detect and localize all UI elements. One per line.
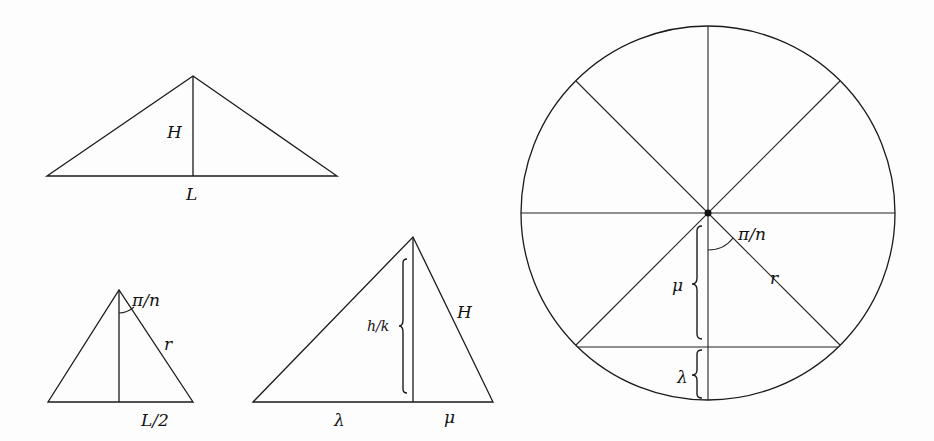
brace-lambda <box>692 350 702 398</box>
label-lambda-base: λ <box>333 410 345 430</box>
triangle-small: π/n r L/2 <box>48 290 193 430</box>
brace-h-over-k <box>399 259 407 393</box>
label-r-small: r <box>164 334 173 354</box>
diagram-svg: H L π/n r L/2 h/k H λ μ <box>0 0 934 441</box>
triangle-top-outline <box>47 76 337 176</box>
geometry-diagram: H L π/n r L/2 h/k H λ μ <box>0 0 934 441</box>
triangle-top: H L <box>47 76 337 204</box>
angle-arc-circle <box>708 238 733 250</box>
label-L: L <box>185 184 197 204</box>
label-H-top: H <box>166 122 183 142</box>
label-h-over-k: h/k <box>367 318 389 334</box>
label-pi-over-n-small: π/n <box>131 290 160 310</box>
circle-figure: π/n r μ λ <box>521 26 895 400</box>
center-point <box>705 210 712 217</box>
label-mu-base: μ <box>444 407 455 427</box>
label-H-middle: H <box>456 302 473 322</box>
brace-mu <box>692 226 702 339</box>
label-pi-over-n-circle: π/n <box>737 224 766 244</box>
triangle-middle: h/k H λ μ <box>253 237 493 430</box>
label-L-half: L/2 <box>140 410 169 430</box>
label-r-circle: r <box>770 268 779 288</box>
label-lambda-circle: λ <box>676 367 688 387</box>
label-mu-circle: μ <box>672 275 683 295</box>
